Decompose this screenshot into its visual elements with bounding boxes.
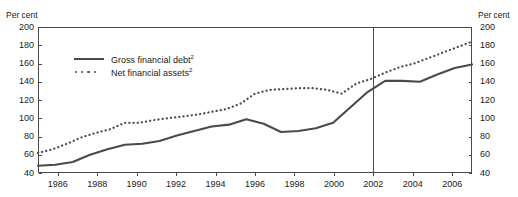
line-gross-financial-debt: [38, 64, 472, 165]
series-lines: [0, 0, 518, 197]
legend-dotted-line-icon: [74, 67, 104, 77]
legend-item: Gross financial debt2: [74, 52, 274, 65]
plot-area: 200180160140120100806040 200180160140120…: [0, 0, 518, 197]
legend-label: Net financial assets2: [111, 65, 192, 78]
legend-item: Net financial assets2: [74, 65, 274, 78]
legend-solid-line-icon: [74, 54, 104, 64]
chart-figure: Per cent Per cent 2001801601401201008060…: [0, 0, 518, 197]
legend-label: Gross financial debt2: [111, 52, 194, 65]
legend: Gross financial debt2Net financial asset…: [74, 52, 274, 78]
